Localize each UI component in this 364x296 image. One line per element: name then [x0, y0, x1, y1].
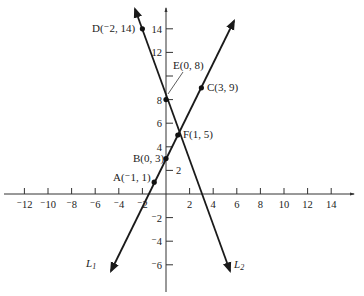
point-E [163, 97, 168, 102]
coordinate-plane: ⁻12⁻10⁻8⁻6⁻4⁻22468101214 ⁻6⁻4⁻224681214 … [0, 0, 364, 296]
x-tick-label: 2 [187, 199, 192, 210]
y-tick-label: 6 [157, 118, 162, 129]
x-tick-label: 12 [302, 199, 313, 210]
y-tick-label: 14 [152, 24, 163, 35]
label-L1: L1 [85, 257, 96, 271]
label-C: C(3, 9) [207, 81, 239, 94]
x-tick-label: ⁻6 [90, 199, 101, 210]
x-tick-label: 4 [211, 199, 217, 210]
point-B [163, 156, 168, 161]
label-D: D(⁻2, 14) [92, 22, 135, 35]
x-tick-label: 10 [279, 199, 290, 210]
y-tick-label: ⁻4 [151, 236, 163, 247]
point-D [140, 26, 145, 31]
x-tick-label: 14 [326, 199, 337, 210]
point-A [152, 180, 157, 185]
x-tick-label: 8 [258, 199, 263, 210]
e-leader-line [168, 72, 183, 94]
label-F: F(1, 5) [183, 128, 213, 141]
x-tick-label: ⁻4 [113, 199, 125, 210]
line-L2 [135, 9, 230, 271]
label-A: A(⁻1, 1) [113, 171, 151, 184]
y-tick-label: 8 [157, 95, 162, 106]
label-B: B(0, 3) [133, 152, 165, 165]
x-axis-ticks: ⁻12⁻10⁻8⁻6⁻4⁻22468101214 [16, 188, 337, 210]
point-F [175, 132, 180, 137]
x-tick-label: ⁻8 [66, 199, 77, 210]
y-tick-label: ⁻6 [151, 260, 162, 271]
point-C [199, 85, 204, 90]
label-L2: L2 [233, 258, 244, 272]
x-tick-label: ⁻10 [40, 199, 56, 210]
y-tick-label: 2 [176, 165, 181, 176]
lines [111, 9, 234, 271]
line-labels: L1 L2 [85, 257, 244, 272]
x-tick-label: ⁻12 [16, 199, 32, 210]
label-E: E(0, 8) [173, 59, 204, 72]
y-tick-label: ⁻2 [151, 213, 162, 224]
axes [4, 8, 354, 292]
x-tick-label: 6 [234, 199, 239, 210]
